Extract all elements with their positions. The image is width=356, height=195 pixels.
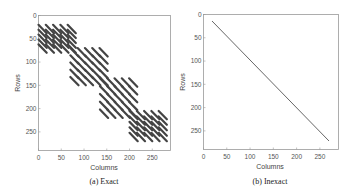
x-tick-label: 150 bbox=[101, 154, 112, 161]
y-tick-label: 150 bbox=[26, 82, 37, 89]
y-tick-label: 250 bbox=[191, 127, 202, 134]
y-tick-label: 200 bbox=[26, 105, 37, 112]
x-tick-label: 0 bbox=[37, 154, 41, 161]
x-tick-label: 100 bbox=[79, 154, 90, 161]
plot-inexact: 005050100100150150200200250250 Columns R… bbox=[179, 11, 339, 186]
x-tick-label: 250 bbox=[314, 153, 325, 160]
x-tick-label: 100 bbox=[245, 153, 256, 160]
x-tick-label: 50 bbox=[58, 154, 66, 161]
y-tick-label: 50 bbox=[29, 35, 37, 42]
y-axis-label: Rows bbox=[179, 73, 186, 91]
y-tick-label: 0 bbox=[198, 11, 202, 18]
y-tick-label: 0 bbox=[33, 12, 37, 19]
y-tick-label: 150 bbox=[191, 81, 202, 88]
plot-exact: 005050100100150150200200250250 Columns R… bbox=[14, 12, 171, 186]
caption-inexact: (b) Inexact bbox=[253, 177, 289, 186]
y-tick-label: 200 bbox=[191, 104, 202, 111]
y-tick-label: 250 bbox=[26, 128, 37, 135]
x-tick-label: 0 bbox=[202, 153, 206, 160]
x-tick-label: 50 bbox=[223, 153, 231, 160]
y-axis-label: Rows bbox=[14, 74, 21, 92]
diagonal-line bbox=[212, 21, 329, 141]
figure: 005050100100150150200200250250 Columns R… bbox=[0, 0, 356, 195]
x-axis-label: Columns bbox=[90, 164, 118, 171]
y-tick-label: 100 bbox=[191, 57, 202, 64]
x-tick-label: 200 bbox=[124, 154, 135, 161]
y-tick-label: 50 bbox=[194, 34, 202, 41]
x-tick-label: 200 bbox=[291, 153, 302, 160]
sparsity-pattern bbox=[39, 25, 167, 141]
y-tick-label: 100 bbox=[26, 58, 37, 65]
x-tick-label: 250 bbox=[147, 154, 158, 161]
caption-exact: (a) Exact bbox=[89, 177, 119, 186]
x-tick-label: 150 bbox=[268, 153, 279, 160]
x-axis-label: Columns bbox=[256, 163, 284, 170]
